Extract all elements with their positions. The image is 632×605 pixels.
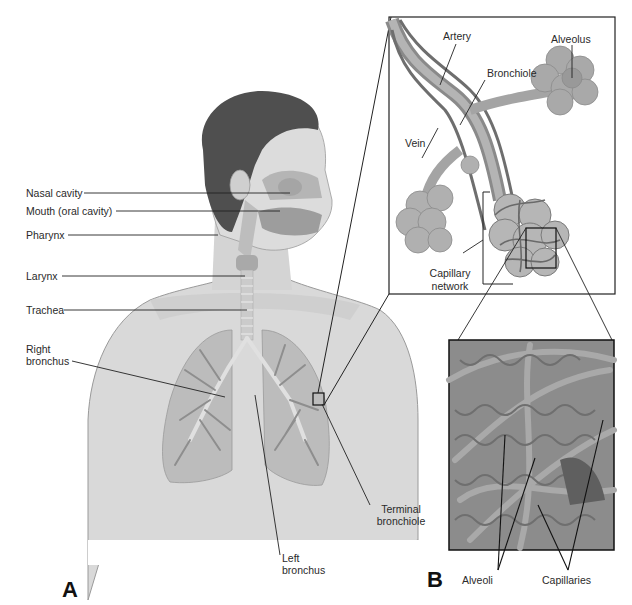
label-alveoli: Alveoli xyxy=(462,574,493,586)
label-right-bronchus-line2: bronchus xyxy=(26,355,69,367)
panel-letter-a: A xyxy=(62,577,78,603)
label-left-bronchus-line1: Left xyxy=(282,552,300,564)
label-alveolus: Alveolus xyxy=(551,33,591,45)
label-capillaries: Capillaries xyxy=(542,574,591,586)
label-vein: Vein xyxy=(405,137,425,149)
capillary-closeup xyxy=(449,340,614,550)
label-left-bronchus-line2: bronchus xyxy=(282,564,325,576)
label-larynx: Larynx xyxy=(26,270,58,282)
label-capillary-network-line2: network xyxy=(420,280,480,292)
label-pharynx: Pharynx xyxy=(26,229,65,241)
label-trachea: Trachea xyxy=(26,304,64,316)
label-bronchiole: Bronchiole xyxy=(487,67,537,79)
respiratory-system-diagram xyxy=(0,0,632,605)
label-mouth: Mouth (oral cavity) xyxy=(26,205,112,217)
label-terminal-bronchiole-line2: bronchiole xyxy=(368,515,434,527)
label-artery: Artery xyxy=(443,30,471,42)
label-terminal-bronchiole-line1: Terminal xyxy=(368,503,434,515)
label-capillary-network-line1: Capillary xyxy=(420,267,480,279)
label-nasal-cavity: Nasal cavity xyxy=(26,187,83,199)
label-right-bronchus-line1: Right xyxy=(26,343,51,355)
panel-letter-b: B xyxy=(427,567,443,593)
